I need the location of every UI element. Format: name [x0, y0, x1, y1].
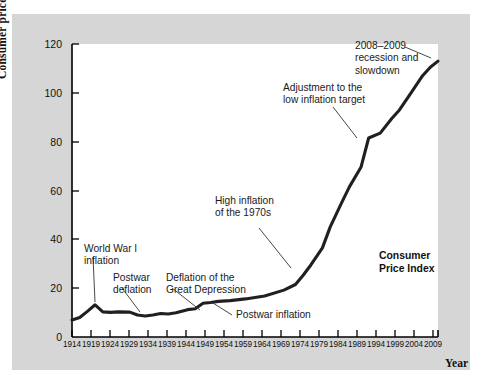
annotation-postwar-inflation: Postwar inflation — [236, 309, 311, 321]
chart-figure: Consumer price index (2002 = 100) 120 10… — [0, 0, 488, 389]
annotation-postwar-deflation: Postwar deflation — [113, 272, 152, 297]
annotation-recession-2008-2009: 2008–2009 recession and slowdown — [355, 40, 418, 77]
leader-low-inflation-target — [333, 107, 357, 138]
y-tick-marks — [72, 44, 79, 288]
series-label-consumer-price-index: Consumer Price Index — [379, 250, 434, 275]
x-tick-marks — [72, 330, 433, 337]
leader-high-inflation-1970s — [259, 228, 291, 268]
annotation-low-inflation-target: Adjustment to the low inflation target — [283, 82, 365, 107]
annotation-high-inflation-1970s: High inflation of the 1970s — [215, 195, 274, 220]
annotation-world-war-i-inflation: World War I inflation — [84, 243, 137, 268]
annotation-great-depression: Deflation of the Great Depression — [166, 272, 246, 297]
leader-postwar-inflation — [213, 303, 232, 315]
